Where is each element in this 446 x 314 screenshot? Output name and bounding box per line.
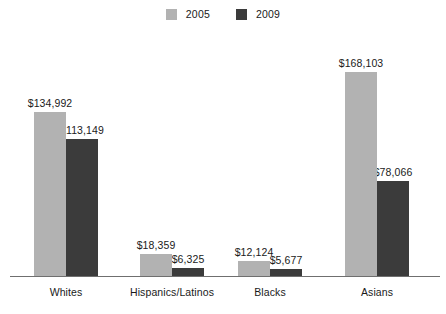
bar-2009-1[interactable] — [66, 139, 98, 276]
bar-value-label-2005-1: $134,992 — [21, 97, 79, 109]
bar-2005-4[interactable] — [345, 72, 377, 276]
bar-2005-1[interactable] — [34, 112, 66, 276]
bar-2005-3[interactable] — [238, 261, 270, 276]
bar-2005-2[interactable] — [140, 254, 172, 276]
category-label-whites: Whites — [6, 286, 126, 299]
bar-value-label-2005-4: $168,103 — [332, 57, 390, 69]
x-axis-line — [10, 276, 440, 277]
category-label-asians: Asians — [317, 286, 437, 299]
bar-value-label-2005-2: $18,359 — [127, 239, 185, 251]
category-label-blacks: Blacks — [210, 286, 330, 299]
bar-chart: 2005 2009 $134,992$113,149$18,359$6,325$… — [0, 0, 446, 314]
bar-2009-3[interactable] — [270, 269, 302, 276]
bar-2009-2[interactable] — [172, 268, 204, 276]
bar-2009-4[interactable] — [377, 181, 409, 276]
